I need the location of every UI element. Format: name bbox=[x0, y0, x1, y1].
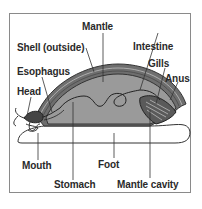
foot-shape bbox=[18, 125, 190, 144]
label-mantle: Mantle bbox=[82, 21, 113, 32]
label-foot: Foot bbox=[98, 159, 119, 170]
label-anus: Anus bbox=[165, 73, 190, 84]
label-shell: Shell (outside) bbox=[17, 42, 84, 53]
label-esophagus: Esophagus bbox=[17, 66, 70, 77]
label-stomach: Stomach bbox=[54, 179, 96, 190]
label-head: Head bbox=[17, 86, 41, 97]
label-mantle-cavity: Mantle cavity bbox=[117, 179, 179, 190]
label-mouth: Mouth bbox=[22, 160, 52, 171]
head-shape bbox=[24, 111, 43, 123]
label-intestine: Intestine bbox=[133, 41, 173, 52]
label-gills: Gills bbox=[148, 58, 169, 69]
